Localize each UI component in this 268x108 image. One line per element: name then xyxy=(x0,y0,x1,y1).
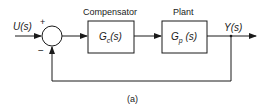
feedback-arrowhead xyxy=(49,46,55,54)
sum-minus-sign: − xyxy=(38,46,44,56)
output-label: Y(s) xyxy=(224,23,242,33)
takeoff-point xyxy=(230,35,233,38)
compensator-title: Compensator xyxy=(83,8,137,17)
plant-title: Plant xyxy=(173,8,194,17)
summing-junction xyxy=(42,26,62,46)
input-label: U(s) xyxy=(13,22,32,32)
block-diagram: U(s) + − Compensator Gc(s) Plant Gp (s) … xyxy=(0,0,268,108)
compensator-transfer-function: Gc(s) xyxy=(99,32,122,44)
figure-caption: (a) xyxy=(127,95,138,104)
sum-plus-sign: + xyxy=(40,18,45,27)
plant-transfer-function: Gp (s) xyxy=(171,32,197,44)
feedback-path xyxy=(52,36,231,81)
